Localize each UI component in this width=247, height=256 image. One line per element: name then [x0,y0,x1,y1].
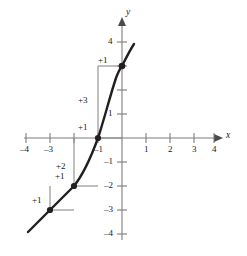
step-label-rise-2: +2 [56,162,66,171]
y-tick-label--3: –3 [104,205,113,214]
y-axis-label: y [126,8,130,18]
step-label-run-1: +1 [55,172,65,181]
y-tick-label-1: 1 [108,109,113,118]
x-tick-label--4: –4 [20,145,29,154]
x-tick-label--3: –3 [44,145,53,154]
step-label-run-3: +1 [78,123,88,132]
y-tick-label--4: –4 [104,229,113,238]
y-tick-label--1: –1 [104,157,113,166]
step-label-rise-3: +3 [78,96,88,105]
x-tick-label--1: –1 [94,145,103,154]
y-axis-arrow [118,17,126,26]
x-axis-arrow [214,134,223,142]
exponential-growth-figure: x y –4 –3 –1 1 2 3 4 4 1 –1 –2 –3 –4 +1 … [0,0,247,256]
plot-canvas [0,0,247,256]
point--1-0 [95,135,101,141]
x-tick-label-1: 1 [144,145,149,154]
point-0-3 [119,63,126,70]
x-tick-label-4: 4 [212,145,217,154]
step-label-rise-1: +1 [32,196,42,205]
y-tick-label-4: 4 [108,37,113,46]
x-tick-label-3: 3 [192,145,197,154]
y-tick-label--2: –2 [104,181,113,190]
x-tick-label-2: 2 [168,145,173,154]
point--3--3 [47,207,53,213]
x-axis-label: x [226,131,230,141]
point--2--2 [71,183,77,189]
step-label-run-4: +1 [98,56,108,65]
